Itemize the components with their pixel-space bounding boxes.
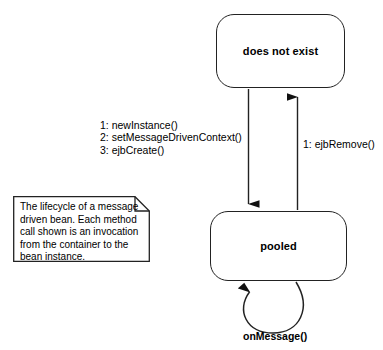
transition-label-create-sequence: 1: newInstance() 2: setMessageDrivenCont… <box>100 119 242 156</box>
state-pooled[interactable]: pooled <box>210 211 347 281</box>
state-label: does not exist <box>243 45 318 57</box>
note-text: The lifecycle of a message driven bean. … <box>20 201 146 264</box>
transition-label-on-message: onMessage() <box>243 330 307 342</box>
transition-label-ejb-remove: 1: ejbRemove() <box>303 138 375 150</box>
note-comment: The lifecycle of a message driven bean. … <box>13 196 150 262</box>
state-label: pooled <box>260 240 297 252</box>
diagram-canvas: does not exist pooled 1: newInstance() 2… <box>0 0 383 350</box>
state-does-not-exist[interactable]: does not exist <box>216 14 345 88</box>
transition-on-message-self-loop <box>244 282 304 333</box>
